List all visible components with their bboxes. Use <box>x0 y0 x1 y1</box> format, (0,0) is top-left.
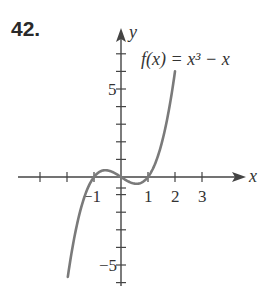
x-tick-label: 1 <box>144 187 153 206</box>
x-axis-label: x <box>248 166 257 186</box>
y-axis-label: y <box>127 22 137 42</box>
x-tick-label: 2 <box>171 187 180 206</box>
problem-number-label: 42. <box>11 17 40 40</box>
function-label: f(x) = x³ − x <box>141 49 230 70</box>
y-tick-label: −5 <box>99 256 117 275</box>
x-tick-label: 3 <box>198 187 207 206</box>
y-tick-label: 5 <box>108 80 117 99</box>
cubic-function-graph: 42. −11235−5 x y f(x) = x³ − x <box>0 0 269 297</box>
